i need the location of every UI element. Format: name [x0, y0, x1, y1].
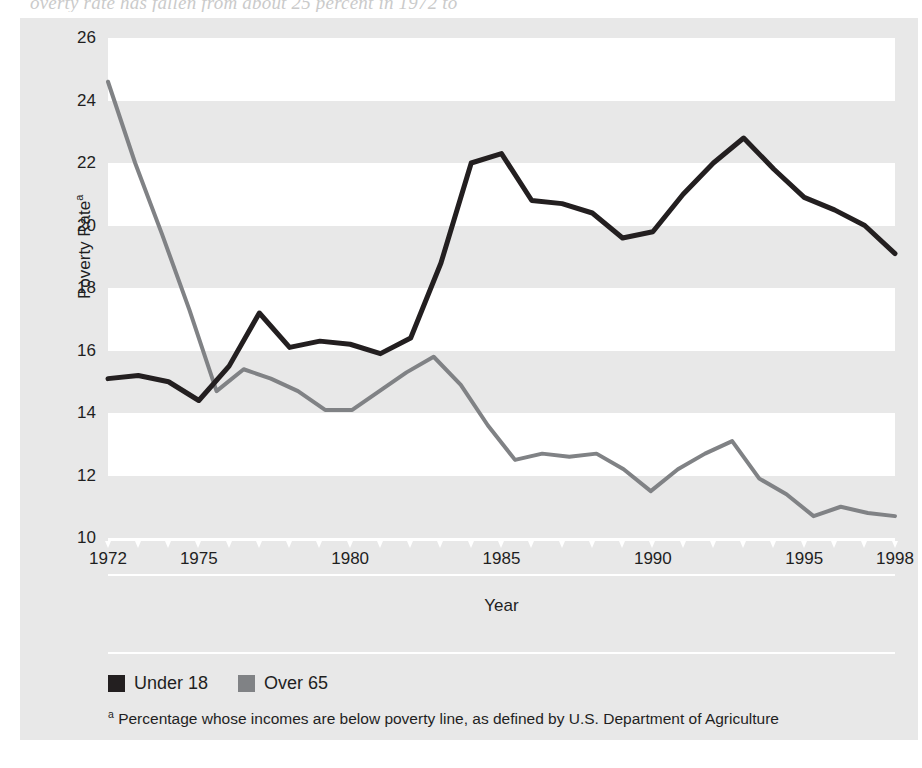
y-axis-tick-label: 14	[62, 403, 96, 423]
data-series-layer	[108, 38, 895, 538]
x-axis-tick	[528, 541, 534, 548]
x-axis-tick	[710, 541, 716, 548]
line-series-under-18	[108, 138, 895, 401]
x-axis-tick-label: 1975	[180, 549, 218, 569]
x-axis-tick-label: 1980	[331, 549, 369, 569]
x-axis-tick	[468, 541, 474, 548]
y-axis-title: Poverty Ratea	[73, 157, 95, 337]
series-svg	[108, 38, 895, 538]
x-axis-tick	[498, 541, 504, 548]
y-axis-title-superscript: a	[73, 195, 85, 201]
legend-item-over-65: Over 65	[238, 673, 328, 694]
legend-item-under-18: Under 18	[108, 673, 208, 694]
x-axis-tick	[195, 541, 201, 548]
y-axis-tick-label: 24	[62, 91, 96, 111]
chart-figure-panel: Poverty Ratea 101214161820222426 1972197…	[20, 18, 918, 740]
x-axis-tick	[165, 541, 171, 548]
x-axis-tick	[377, 541, 383, 548]
chart-legend: Under 18 Over 65	[108, 673, 328, 694]
x-axis-tick	[649, 541, 655, 548]
x-axis-tick-label: 1998	[876, 549, 914, 569]
legend-label-over-65: Over 65	[264, 673, 328, 694]
x-axis-tick-label: 1995	[785, 549, 823, 569]
x-axis-tick	[861, 541, 867, 548]
y-axis-tick-label: 16	[62, 341, 96, 361]
x-axis-tick	[256, 541, 262, 548]
legend-label-under-18: Under 18	[134, 673, 208, 694]
x-axis-tick	[892, 541, 898, 548]
x-axis-tick	[407, 541, 413, 548]
x-axis-tick	[105, 541, 111, 548]
x-axis-tick	[316, 541, 322, 548]
x-axis-tick	[226, 541, 232, 548]
chart-footnote: a Percentage whose incomes are below pov…	[108, 708, 779, 728]
x-axis-tick	[831, 541, 837, 548]
x-axis-tick	[680, 541, 686, 548]
plot-area	[108, 38, 895, 538]
x-axis-tick	[770, 541, 776, 548]
x-axis-tick-label: 1990	[634, 549, 672, 569]
separator-rule-top	[108, 574, 895, 576]
y-axis-tick-label: 10	[62, 528, 96, 548]
x-axis-tick	[589, 541, 595, 548]
x-axis-tick	[347, 541, 353, 548]
y-axis-tick-label: 20	[62, 216, 96, 236]
line-series-over-65	[108, 82, 895, 516]
x-axis-tick-label: 1985	[483, 549, 521, 569]
separator-rule-bottom	[108, 652, 895, 654]
x-axis-tick	[559, 541, 565, 548]
x-axis-tick	[619, 541, 625, 548]
page-top-text-fragment: overty rate has fallen from about 25 per…	[30, 0, 630, 12]
x-axis-tick	[135, 541, 141, 548]
legend-swatch-icon-under-18	[108, 675, 125, 692]
x-axis-title: Year	[108, 596, 895, 616]
x-axis-tick	[286, 541, 292, 548]
x-axis-tick	[437, 541, 443, 548]
footnote-text: Percentage whose incomes are below pover…	[114, 710, 779, 727]
y-axis-tick-label: 22	[62, 153, 96, 173]
y-axis-tick-label: 12	[62, 466, 96, 486]
legend-swatch-icon-over-65	[238, 675, 255, 692]
x-axis-tick	[740, 541, 746, 548]
x-axis-tick-label: 1972	[89, 549, 127, 569]
y-axis-tick-label: 18	[62, 278, 96, 298]
x-axis-tick	[801, 541, 807, 548]
y-axis-tick-label: 26	[62, 28, 96, 48]
